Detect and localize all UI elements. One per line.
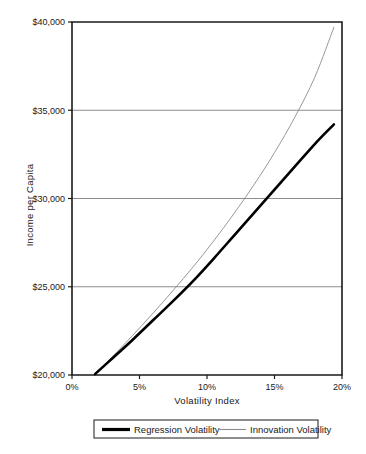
x-tick-label: 20% — [333, 382, 351, 392]
y-tick-label: $30,000 — [32, 194, 65, 204]
y-tick-label: $40,000 — [32, 17, 65, 27]
line-chart: Volatility Index Income per Capita Regre… — [0, 0, 366, 454]
y-tick-label: $35,000 — [32, 106, 65, 116]
chart-container: Volatility Index Income per Capita Regre… — [0, 0, 366, 454]
legend-label-regression-volatility: Regression Volatility — [134, 424, 220, 435]
legend: Regression Volatility Innovation Volatil… — [94, 420, 332, 438]
y-tick-label: $20,000 — [32, 370, 65, 380]
x-tick-label: 5% — [133, 382, 146, 392]
y-tick-label: $25,000 — [32, 282, 65, 292]
y-axis-title: Income per Capita — [24, 163, 35, 246]
x-axis-title: Volatility Index — [174, 395, 240, 406]
x-tick-label: 0% — [65, 382, 78, 392]
x-tick-label: 15% — [265, 382, 283, 392]
x-tick-label: 10% — [198, 382, 216, 392]
legend-label-innovation-volatility: Innovation Volatility — [250, 424, 332, 435]
